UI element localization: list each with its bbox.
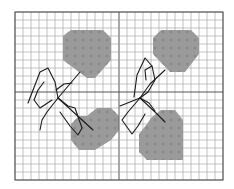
cross-stitch-chart	[0, 0, 234, 189]
heart-bottom-right	[138, 110, 189, 162]
hearts	[58, 30, 205, 162]
